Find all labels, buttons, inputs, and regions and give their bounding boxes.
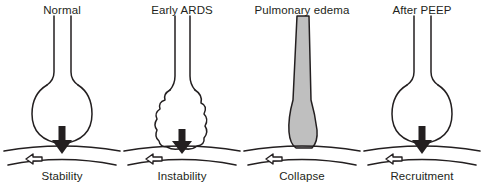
panel-early-ards-artwork bbox=[122, 14, 242, 172]
panel-after-peep: After PEEP Recruitment bbox=[362, 0, 482, 191]
panel-after-peep-artwork bbox=[362, 14, 482, 172]
panel-early-ards-bottom-label: Instability bbox=[122, 170, 242, 182]
alveolus-sac-fluid-filled bbox=[289, 16, 317, 148]
basement-membrane-curve-lower bbox=[8, 160, 116, 166]
panel-normal: Normal bbox=[2, 0, 122, 191]
downward-compression-arrow bbox=[52, 126, 72, 154]
airway-duct-right bbox=[431, 16, 438, 85]
basement-membrane-curve-lower bbox=[368, 160, 476, 166]
panel-normal-artwork bbox=[2, 14, 122, 172]
hollow-lateral-traction-arrow bbox=[26, 154, 42, 164]
alveolar-mechanics-figure: Normal bbox=[0, 0, 482, 191]
panel-normal-bottom-label: Stability bbox=[2, 170, 122, 182]
panel-pulmonary-edema: Pulmonary edema Collapse bbox=[242, 0, 362, 191]
hollow-lateral-traction-arrow bbox=[386, 154, 402, 164]
panel-pulmonary-edema-artwork bbox=[242, 14, 362, 172]
airway-duct-left bbox=[170, 16, 175, 90]
panel-after-peep-bottom-label: Recruitment bbox=[362, 170, 482, 182]
panel-early-ards: Early ARDS Instability bbox=[122, 0, 242, 191]
airway-duct-left bbox=[47, 16, 54, 85]
airway-duct-left bbox=[407, 16, 414, 85]
downward-compression-arrow bbox=[412, 126, 432, 154]
hollow-lateral-traction-arrow bbox=[146, 154, 162, 164]
basement-membrane-curve-lower bbox=[128, 160, 236, 166]
panel-pulmonary-edema-bottom-label: Collapse bbox=[242, 170, 362, 182]
airway-duct-right bbox=[71, 16, 78, 85]
hollow-lateral-traction-arrow bbox=[266, 154, 282, 164]
downward-compression-arrow bbox=[172, 129, 192, 154]
airway-duct-right bbox=[190, 16, 195, 90]
basement-membrane-curve-lower bbox=[248, 160, 356, 166]
